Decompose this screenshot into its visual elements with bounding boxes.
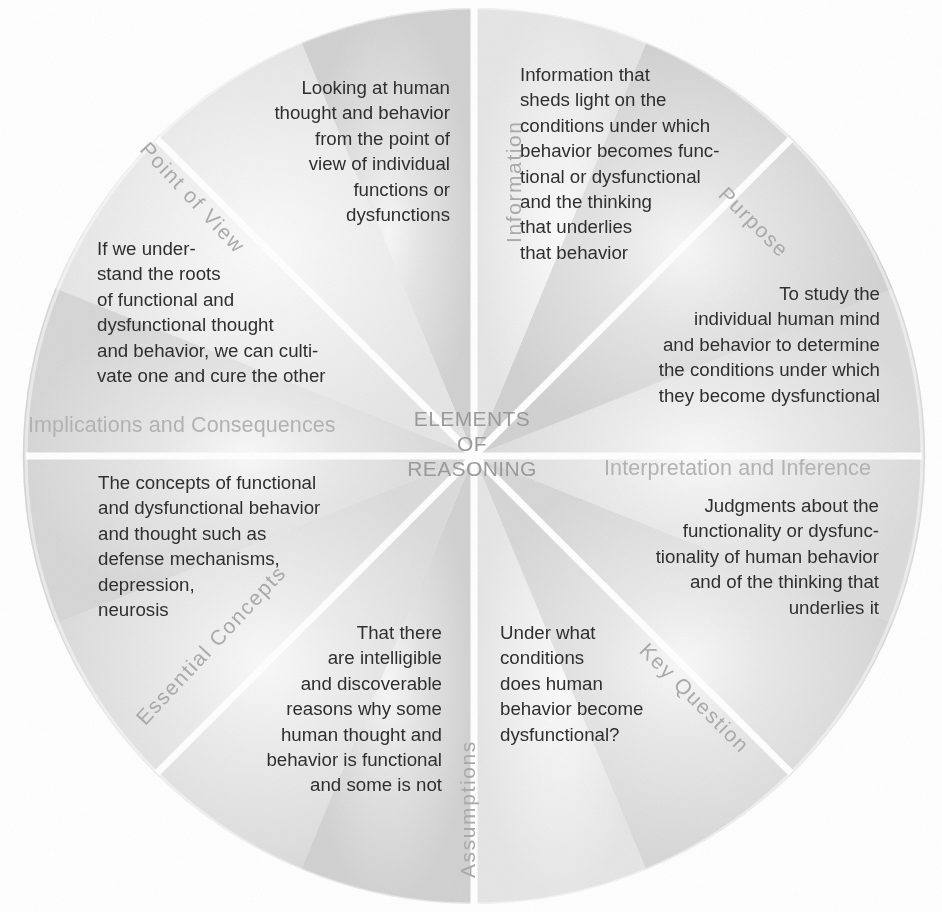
center-title-line-2: OF — [399, 431, 545, 456]
sector-text-implications-and-consequences: If we under- stand the roots of function… — [97, 236, 427, 388]
sector-text-point-of-view: Looking at human thought and behavior fr… — [196, 75, 450, 227]
sector-label-information: Information — [503, 120, 525, 243]
sector-text-interpretation-and-inference: Judgments about the functionality or dys… — [561, 493, 879, 620]
sector-text-assumptions: That there are intelligible and discover… — [190, 620, 442, 798]
sector-text-purpose: To study the individual human mind and b… — [556, 281, 880, 408]
sector-label-implications-and-consequences: Implications and Consequences — [28, 413, 336, 437]
center-title-line-1: ELEMENTS — [399, 406, 545, 431]
elements-of-reasoning-wheel: ELEMENTS OF REASONING Looking at human t… — [0, 0, 942, 912]
sector-label-interpretation-and-inference: Interpretation and Inference — [604, 456, 871, 480]
sector-label-assumptions: Assumptions — [457, 740, 479, 878]
